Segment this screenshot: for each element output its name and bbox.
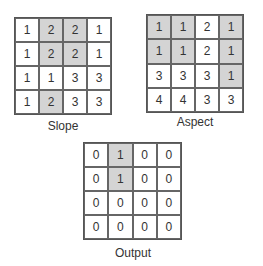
output-cell: 0 — [133, 143, 157, 167]
output-cell: 0 — [133, 167, 157, 191]
output-cell: 0 — [157, 191, 181, 215]
aspect-cell: 3 — [219, 88, 243, 112]
aspect-cell: 4 — [171, 88, 195, 112]
aspect-cell: 1 — [171, 15, 195, 39]
slope-cell: 1 — [15, 42, 39, 66]
output-cell: 1 — [108, 167, 132, 191]
slope-cell: 2 — [63, 18, 87, 42]
slope-cell: 1 — [87, 42, 111, 66]
aspect-cell: 4 — [147, 88, 171, 112]
slope-cell: 3 — [87, 66, 111, 90]
slope-cell: 2 — [63, 42, 87, 66]
aspect-cell: 1 — [219, 15, 243, 39]
aspect-cell: 2 — [195, 39, 219, 63]
slope-label: Slope — [13, 119, 113, 133]
slope-cell: 1 — [15, 18, 39, 42]
aspect-grid: 1121112133314433 — [146, 14, 244, 113]
slope-cell: 1 — [39, 66, 63, 90]
aspect-cell: 1 — [219, 64, 243, 88]
slope-cell: 3 — [63, 66, 87, 90]
aspect-cell: 3 — [195, 64, 219, 88]
output-cell: 0 — [157, 215, 181, 239]
output-cell: 0 — [84, 215, 108, 239]
slope-cell: 3 — [63, 90, 87, 114]
output-cell: 0 — [108, 215, 132, 239]
output-cell: 0 — [157, 167, 181, 191]
slope-cell: 1 — [87, 18, 111, 42]
output-cell: 0 — [157, 143, 181, 167]
aspect-cell: 1 — [171, 39, 195, 63]
aspect-cell: 1 — [219, 39, 243, 63]
output-cell: 0 — [133, 215, 157, 239]
output-cell: 0 — [84, 167, 108, 191]
slope-grid: 1221122111331233 — [14, 17, 112, 115]
aspect-cell: 1 — [147, 15, 171, 39]
slope-cell: 2 — [39, 18, 63, 42]
aspect-label: Aspect — [145, 115, 245, 129]
slope-cell: 2 — [39, 90, 63, 114]
output-cell: 0 — [84, 143, 108, 167]
slope-cell: 3 — [87, 90, 111, 114]
output-grid: 0100010000000000 — [83, 142, 182, 240]
aspect-cell: 3 — [171, 64, 195, 88]
output-label: Output — [83, 246, 183, 260]
output-cell: 0 — [108, 191, 132, 215]
output-cell: 0 — [133, 191, 157, 215]
aspect-cell: 3 — [147, 64, 171, 88]
slope-cell: 1 — [15, 90, 39, 114]
slope-cell: 2 — [39, 42, 63, 66]
output-cell: 0 — [84, 191, 108, 215]
aspect-cell: 1 — [147, 39, 171, 63]
aspect-cell: 2 — [195, 15, 219, 39]
slope-cell: 1 — [15, 66, 39, 90]
aspect-cell: 3 — [195, 88, 219, 112]
output-cell: 1 — [108, 143, 132, 167]
